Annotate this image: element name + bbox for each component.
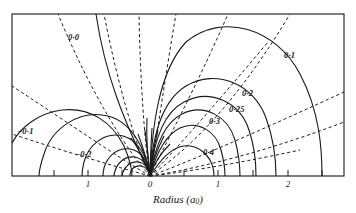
contour-label-0-2: 0·2 [242,89,253,98]
x-axis-title-tail: ) [199,193,203,205]
x-axis-title-main: Radius (a [153,193,195,205]
x-tick-label-origin: 0 [148,180,153,189]
contour-label-0-4: 0·4 [203,148,214,157]
contour-label-0-1: 0·1 [284,51,295,60]
x-tick-label-right-2: 2 [286,180,291,189]
contour-plot-figure: 0·0 0·1 0·2 0·25 0·3 0·4 −0·1 −0·2 1 0 1… [0,0,356,213]
x-axis-title: Radius (a0) [153,194,203,206]
x-tick-label-left-1: 1 [86,180,91,189]
x-tick-label-right-1: 1 [216,180,221,189]
contour-label-0-0: 0·0 [68,33,79,42]
contour-label-neg-0-2: −0·2 [75,150,92,159]
plot-canvas [0,0,356,213]
contour-label-0-25: 0·25 [229,105,245,114]
contour-label-0-3: 0·3 [209,117,220,126]
contour-label-neg-0-1: −0·1 [17,127,34,136]
